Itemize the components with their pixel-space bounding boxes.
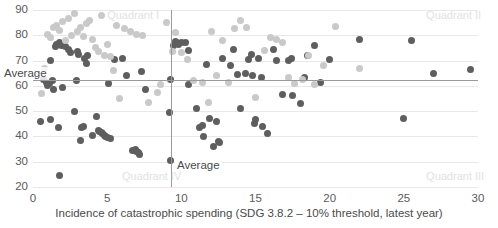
data-point	[213, 72, 220, 79]
data-point	[56, 172, 63, 179]
data-point	[65, 15, 72, 22]
data-point	[273, 57, 280, 64]
data-point	[219, 55, 226, 62]
data-point	[185, 47, 192, 54]
data-point	[205, 99, 212, 106]
data-point	[311, 81, 318, 88]
data-point	[332, 23, 339, 30]
data-point	[252, 116, 259, 123]
x-tick-label-25: 25	[389, 193, 419, 205]
data-point	[77, 137, 84, 144]
data-point	[249, 72, 256, 79]
data-point	[297, 100, 304, 107]
data-point	[80, 123, 87, 130]
data-point	[234, 71, 241, 78]
data-point	[73, 77, 80, 84]
data-point	[80, 33, 87, 40]
y-tick-label-90: 90	[4, 4, 28, 16]
y-tick-label-20: 20	[4, 181, 28, 193]
x-tick-label-20: 20	[315, 193, 345, 205]
data-point	[213, 118, 220, 125]
quadrant-1-label: Quadrant I	[107, 10, 159, 21]
x-tick-label-5: 5	[92, 193, 122, 205]
data-point	[230, 46, 237, 53]
data-point	[206, 115, 213, 122]
data-point	[279, 39, 286, 46]
quadrant-4-label: Quadrant IV	[122, 171, 181, 182]
x-axis-title: Incidence of catastrophic spending (SDG …	[0, 207, 498, 220]
y-tick-label-50: 50	[4, 105, 28, 117]
data-point	[104, 41, 111, 48]
data-point	[320, 62, 327, 69]
data-point	[190, 77, 197, 84]
data-point	[142, 86, 149, 93]
data-point	[56, 27, 63, 34]
data-point	[98, 12, 105, 19]
y-tick-label-30: 30	[4, 156, 28, 168]
gridline-y-90	[33, 10, 478, 11]
data-point	[193, 105, 200, 112]
data-point	[38, 90, 45, 97]
data-point	[119, 55, 126, 62]
data-point	[356, 65, 363, 72]
data-point	[243, 24, 250, 31]
data-point	[55, 124, 62, 131]
data-point	[326, 56, 333, 63]
data-point	[71, 108, 78, 115]
data-point	[84, 52, 91, 59]
data-point	[67, 49, 74, 56]
gridline-y-20	[33, 187, 478, 188]
data-point	[89, 132, 96, 139]
data-point	[138, 68, 145, 75]
x-tick-label-15: 15	[241, 193, 271, 205]
data-point	[71, 10, 78, 17]
data-point	[47, 57, 54, 64]
data-point	[203, 61, 210, 68]
data-point	[145, 99, 152, 106]
data-point	[116, 95, 123, 102]
scatter-chart: 2030405060708090 AverageAverage Quadrant…	[0, 0, 498, 228]
quadrant-3-label: Quadrant III	[426, 171, 484, 182]
data-point	[37, 118, 44, 125]
horizontal-average-line	[33, 80, 478, 81]
data-point	[49, 77, 56, 84]
data-point	[86, 17, 93, 24]
data-point	[157, 81, 164, 88]
data-point	[252, 94, 259, 101]
x-tick-label-10: 10	[166, 193, 196, 205]
data-point	[107, 53, 114, 60]
data-point	[105, 80, 112, 87]
data-point	[113, 22, 120, 29]
data-point	[248, 51, 255, 58]
data-point	[59, 84, 66, 91]
data-point	[356, 36, 363, 43]
data-point	[288, 55, 295, 62]
data-point	[184, 56, 191, 63]
data-point	[83, 60, 90, 67]
data-point	[408, 37, 415, 44]
data-point	[231, 25, 238, 32]
data-point	[227, 62, 234, 69]
data-point	[154, 89, 161, 96]
data-point	[289, 92, 296, 99]
data-point	[47, 116, 54, 123]
data-point	[270, 46, 277, 53]
y-tick-label-60: 60	[4, 80, 28, 92]
data-point	[139, 32, 146, 39]
plot-area: AverageAverage Quadrant IQuadrant IIQuad…	[33, 10, 478, 187]
data-point	[136, 151, 143, 158]
data-point	[199, 122, 206, 129]
data-point	[255, 55, 262, 62]
y-tick-label-80: 80	[4, 29, 28, 41]
quadrant-2-label: Quadrant II	[426, 10, 481, 21]
data-point	[259, 123, 266, 130]
data-point	[208, 28, 215, 35]
x-tick-label-30: 30	[463, 193, 493, 205]
data-point	[93, 113, 100, 120]
data-point	[219, 37, 226, 44]
gridline-y-40	[33, 136, 478, 137]
data-point	[291, 80, 298, 87]
data-point	[178, 49, 185, 56]
vertical-average-label: Average	[175, 159, 222, 173]
gridline-y-60	[33, 86, 478, 87]
